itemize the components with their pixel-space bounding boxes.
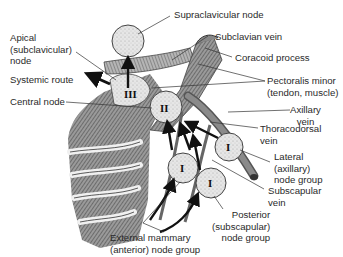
label-line: (tendon, muscle): [267, 87, 338, 99]
label-external-mammary-node-group: External mammary (anterior) node group: [110, 232, 200, 255]
svg-text:II: II: [160, 104, 168, 114]
label-line: Thoracodorsal: [260, 123, 321, 135]
label-subscapular-vein: Subscapular vein: [268, 185, 321, 208]
label-line: Subscapular: [268, 185, 321, 197]
label-apical-node: Apical (subclavicular) node: [10, 32, 72, 67]
label-line: node group: [274, 174, 323, 186]
label-line: vein: [268, 197, 321, 209]
label-line: External mammary: [110, 232, 200, 244]
lateral-node: I: [215, 133, 243, 161]
label-line: Apical: [10, 32, 72, 44]
label-line: Lateral: [274, 151, 323, 163]
label-line: (axillary): [274, 163, 323, 175]
label-line: Axillary: [290, 104, 321, 116]
label-systemic-route: Systemic route: [10, 74, 73, 86]
label-line: node group: [212, 232, 270, 244]
label-lateral-node-group: Lateral (axillary) node group: [274, 151, 323, 186]
label-line: (subscapular): [212, 221, 270, 233]
label-pectoralis-minor: Pectoralis minor (tendon, muscle): [267, 75, 338, 98]
label-line: (subclavicular): [10, 44, 72, 56]
svg-text:III: III: [124, 90, 137, 100]
label-central-node: Central node: [10, 96, 65, 108]
label-posterior-node-group: Posterior (subscapular) node group: [212, 209, 270, 244]
label-line: Pectoralis minor: [267, 75, 338, 87]
central-node: II: [150, 91, 182, 123]
label-subclavian-vein: Subclavian vein: [215, 31, 282, 43]
label-supraclavicular-node: Supraclavicular node: [174, 9, 264, 21]
svg-text:I: I: [180, 164, 184, 174]
posterior-node: I: [196, 168, 226, 198]
label-thoracodorsal-vein: Thoracodorsal vein: [260, 123, 321, 146]
svg-text:I: I: [226, 143, 230, 153]
label-line: Posterior: [212, 209, 270, 221]
label-line: (anterior) node group: [110, 244, 200, 256]
label-coracoid-process: Coracoid process: [235, 52, 310, 64]
svg-text:I: I: [208, 179, 212, 189]
label-line: node: [10, 55, 72, 67]
anterior-node: I: [168, 153, 198, 183]
label-line: vein: [260, 135, 321, 147]
supraclavicular-node: [112, 25, 144, 57]
